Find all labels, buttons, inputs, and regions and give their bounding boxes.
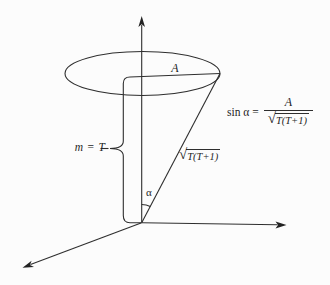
projection-label: m = T: [75, 142, 106, 154]
formula-fraction: A √ T(T+1): [264, 96, 313, 128]
radical-sign-icon: √: [268, 111, 276, 126]
radius-label: A: [171, 62, 178, 74]
slant-radicand: T(T+1): [186, 149, 220, 163]
right-axis-line: [142, 223, 278, 225]
left-axis-line: [31, 223, 142, 265]
diagram-canvas: [0, 0, 330, 285]
sine-formula: sin α = A √ T(T+1): [227, 96, 313, 128]
angle-arc: [142, 204, 151, 206]
vector-model-diagram: A m = T α √ T(T+1) sin α = A √ T(T+1): [0, 0, 330, 285]
formula-denominator: √ T(T+1): [264, 110, 313, 128]
projection-brace: [110, 77, 141, 223]
formula-numerator: A: [283, 96, 294, 110]
angle-label: α: [146, 187, 152, 198]
formula-radicand: T(T+1): [275, 113, 309, 127]
radical-sign-icon: √: [179, 147, 187, 162]
precession-ellipse: [65, 52, 220, 96]
slant-magnitude-label: √ T(T+1): [179, 149, 220, 164]
formula-lhs: sin α =: [227, 106, 259, 118]
